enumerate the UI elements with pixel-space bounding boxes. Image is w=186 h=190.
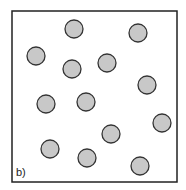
particles-group (27, 20, 171, 175)
particle-circle (65, 20, 83, 38)
particle-circle (78, 149, 96, 167)
particle-circle (153, 114, 171, 132)
particle-circle (37, 95, 55, 113)
particle-circle (102, 125, 120, 143)
particle-circle (63, 60, 81, 78)
particle-circle (98, 54, 116, 72)
particle-circle (77, 93, 95, 111)
particle-circle (138, 76, 156, 94)
particle-circle (129, 24, 147, 42)
particle-circle (27, 47, 45, 65)
panel-label: b) (16, 166, 26, 178)
particle-circle (41, 140, 59, 158)
particle-circle (131, 157, 149, 175)
diagram-canvas (0, 0, 186, 190)
